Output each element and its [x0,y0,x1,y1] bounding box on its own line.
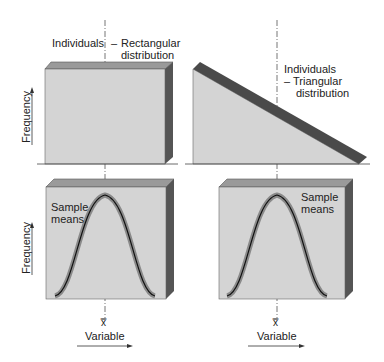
frequency-label-top: Frequency [20,91,32,143]
mean-symbol-left: x̿ [101,317,106,329]
mean-symbol-right: x̿ [273,317,278,329]
sample-means-block-left [46,179,174,299]
label-rectangular: Rectangular [121,37,180,49]
label-sample-right: Sample [301,191,338,203]
label-means-right: means [301,203,334,215]
variable-label-left: Variable [85,330,125,342]
figure-canvas [0,0,384,362]
label-means-left: means [51,213,84,225]
arrow-head-icon [299,344,305,348]
label-distribution-right: distribution [296,87,349,99]
arrow-head-icon [127,344,133,348]
label-distribution-left: distribution [121,49,174,61]
label-individuals-left: Individuals [52,37,104,49]
label-triangular: – Triangular [284,75,342,87]
label-individuals-right: Individuals [284,63,336,75]
label-dash-left: – [111,37,117,49]
label-sample-left: Sample [51,201,88,213]
frequency-label-bottom: Frequency [20,222,32,274]
variable-label-right: Variable [257,330,297,342]
rectangular-distribution-block [45,62,173,164]
